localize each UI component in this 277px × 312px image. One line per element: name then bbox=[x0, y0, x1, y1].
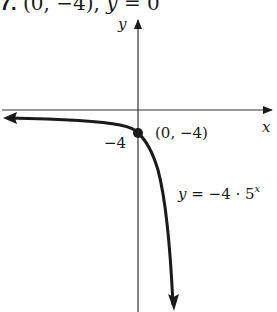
y-tick-label: −4 bbox=[104, 134, 126, 152]
y-intercept-point bbox=[133, 128, 143, 138]
equation-label: y = −4 · 5x bbox=[178, 183, 260, 203]
y-axis-label: y bbox=[118, 15, 126, 33]
equation-exp: x bbox=[255, 183, 261, 194]
left-arrow-icon bbox=[3, 112, 17, 124]
graph bbox=[0, 0, 277, 312]
point-label: (0, −4) bbox=[155, 124, 208, 142]
equation-mid: = −4 · 5 bbox=[186, 185, 254, 203]
exponential-curve bbox=[8, 118, 173, 305]
x-axis-label: x bbox=[262, 118, 270, 136]
